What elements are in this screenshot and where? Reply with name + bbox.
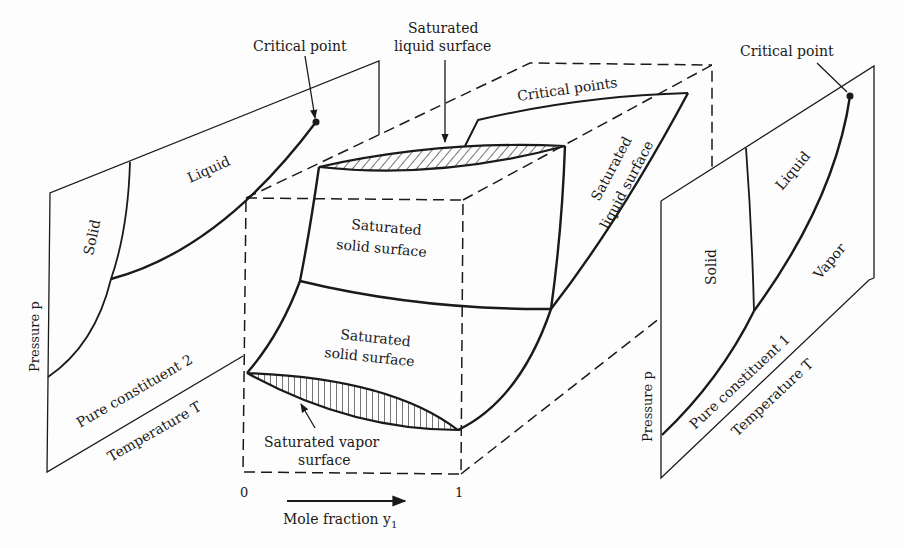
left-pressure-axis-label: Pressure p [27, 301, 42, 372]
box-bottom-right-dashed [461, 318, 660, 474]
x-axis-tick-1: 1 [455, 485, 463, 500]
top-liquid-label-line2: liquid surface [394, 38, 491, 54]
center-block: Saturated liquid surface Critical points… [240, 20, 712, 530]
left-critical-point-label: Critical point [253, 38, 347, 54]
right-liquid-label: Liquid [772, 148, 813, 193]
left-sublimation-curve [48, 279, 111, 377]
right-solid-edge [551, 146, 565, 309]
x-axis-tick-0: 0 [240, 485, 248, 500]
right-critical-pointer [817, 63, 847, 92]
right-critical-point [847, 93, 854, 100]
right-panel: Critical point Solid Liquid Vapor Pressu… [640, 43, 874, 478]
right-pressure-axis-label: Pressure p [640, 371, 655, 442]
left-liquid-label: Liquid [185, 153, 233, 186]
right-critical-point-label: Critical point [740, 43, 834, 59]
right-solid-label: Solid [703, 249, 719, 285]
left-vaporization-curve [111, 122, 316, 279]
middle-solid-boundary [300, 281, 551, 309]
left-melting-curve [111, 162, 130, 279]
x-axis-label: Mole fraction y1 [283, 511, 397, 530]
vapor-label-line2: surface [298, 452, 351, 468]
box-top-left-dashed [246, 63, 712, 198]
top-liquid-label-line1: Saturated [408, 20, 479, 36]
bottom-vapor-lens [247, 373, 458, 430]
phase-diagram-figure: Critical point Solid Liquid Pressure p P… [0, 0, 904, 548]
vapor-label-line1: Saturated vapor [264, 434, 380, 450]
left-solid-label: Solid [80, 218, 103, 257]
top-liquid-lens [319, 145, 565, 171]
upper-solid-label-line2: solid surface [336, 236, 428, 260]
right-vaporization-curve [754, 96, 850, 311]
upper-solid-label-line1: Saturated [351, 216, 423, 238]
left-critical-point [313, 119, 320, 126]
right-vapor-label: Vapor [809, 240, 849, 283]
right-melting-curve [746, 148, 754, 311]
vapor-pointer [301, 404, 315, 428]
